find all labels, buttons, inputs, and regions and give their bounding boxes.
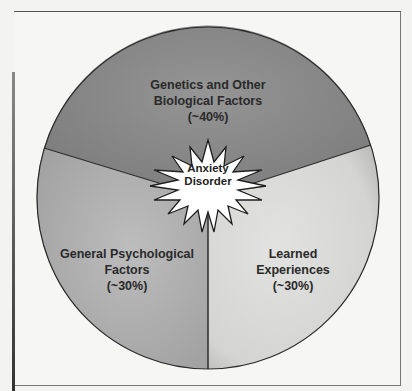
label-learned-line1: Learned — [238, 246, 348, 262]
label-genetics-line2: Biological Factors — [128, 93, 288, 109]
pie-diagram — [0, 0, 412, 391]
label-learned-percent: (~30%) — [238, 278, 348, 294]
label-learned: Learned Experiences (~30%) — [238, 246, 348, 294]
label-psychological-percent: (~30%) — [52, 278, 202, 294]
label-psychological-line2: Factors — [52, 262, 202, 278]
center-label-line1: Anxiety — [168, 162, 248, 175]
center-label-line2: Disorder — [168, 175, 248, 188]
label-learned-line2: Experiences — [238, 262, 348, 278]
label-psychological-line1: General Psychological — [52, 246, 202, 262]
label-genetics-percent: (~40%) — [128, 109, 288, 125]
label-genetics-line1: Genetics and Other — [128, 77, 288, 93]
label-genetics: Genetics and Other Biological Factors (~… — [128, 77, 288, 125]
label-psychological: General Psychological Factors (~30%) — [52, 246, 202, 294]
center-label: Anxiety Disorder — [168, 162, 248, 188]
